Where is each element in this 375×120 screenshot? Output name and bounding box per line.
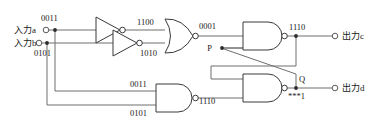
signal-label-not-top-out: 1100 xyxy=(137,17,154,27)
junction-dot-node-p xyxy=(220,46,224,50)
not-gate-top-bubble xyxy=(120,27,126,33)
nand-gate-bottom-left[interactable] xyxy=(156,84,198,112)
input-terminal-a[interactable] xyxy=(43,27,49,33)
signal-label-nand-bl-in-top: 0011 xyxy=(130,79,147,89)
signal-label-nand-bl-in-bottom: 0101 xyxy=(130,108,147,118)
nor-gate-bubble xyxy=(193,33,199,39)
not-gate-bottom[interactable] xyxy=(113,30,142,56)
nand-gate-bottom-right[interactable] xyxy=(243,74,287,102)
output-terminal-c[interactable] xyxy=(332,33,338,39)
nand-gate-bottom-left-body xyxy=(156,84,192,112)
nand-gate-bottom-right-bubble xyxy=(282,85,288,91)
node-label-p: P xyxy=(207,43,212,53)
junction-dot-output-d xyxy=(294,86,298,90)
input-value-a: 0011 xyxy=(41,13,58,23)
signal-label-nand-br-out: ***1 xyxy=(288,91,305,101)
output-label-d: 出力d xyxy=(342,82,365,93)
junction-dot-output-c xyxy=(294,34,298,38)
signal-label-nand-top-out: 1110 xyxy=(289,22,305,32)
nand-gate-top[interactable] xyxy=(243,22,287,50)
not-gate-bottom-body xyxy=(113,30,137,56)
signal-label-nand-bl-out: 1110 xyxy=(199,96,215,106)
input-label-a: 入力a xyxy=(14,24,36,35)
junction-dot-input-a xyxy=(53,28,57,32)
input-terminal-b[interactable] xyxy=(36,40,42,46)
signal-label-not-bottom-out: 1010 xyxy=(140,48,157,58)
nand-gate-bottom-left-bubble xyxy=(193,95,199,101)
nand-gate-bottom-right-body xyxy=(243,74,282,102)
nor-gate-body xyxy=(165,19,193,53)
logic-circuit-diagram: 入力a 入力b 0011 0101 1100 1010 0001 1110 00… xyxy=(0,0,375,120)
output-label-c: 出力c xyxy=(342,30,364,41)
nor-gate[interactable] xyxy=(165,19,198,53)
not-gate-bottom-bubble xyxy=(137,40,143,46)
signal-label-nor-out: 0001 xyxy=(199,21,216,31)
nand-gate-top-body xyxy=(243,22,282,50)
node-label-q: Q xyxy=(299,74,305,84)
nand-gate-top-bubble xyxy=(282,33,288,39)
input-value-b: 0101 xyxy=(34,48,51,58)
junction-dot-input-b xyxy=(45,41,49,45)
output-terminal-d[interactable] xyxy=(332,85,338,91)
input-label-b: 入力b xyxy=(14,37,37,48)
